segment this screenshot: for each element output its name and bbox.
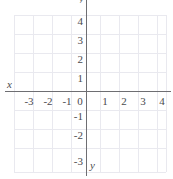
gridline-vertical — [119, 15, 120, 172]
y-tick-label: 3 — [67, 35, 83, 46]
x-tick-label: -3 — [20, 96, 38, 107]
y-axis-line — [86, 0, 87, 176]
x-tick-label-origin: 0 — [71, 96, 89, 107]
x-axis-line — [5, 91, 171, 92]
gridline-horizontal — [14, 148, 166, 149]
gridline-horizontal — [14, 172, 166, 173]
gridline-vertical — [33, 15, 34, 172]
gridline-horizontal — [14, 53, 166, 54]
gridline-horizontal — [14, 129, 166, 130]
x-axis-label: x — [7, 79, 12, 90]
x-tick-label: 4 — [153, 96, 171, 107]
gridline-horizontal — [14, 72, 166, 73]
y-axis-label-top: y — [79, 0, 91, 3]
gridline-vertical — [138, 15, 139, 172]
y-tick-label: -1 — [67, 111, 83, 122]
y-tick-label: -2 — [67, 130, 83, 141]
x-tick-label: -2 — [39, 96, 57, 107]
y-tick-label: -3 — [67, 156, 83, 167]
x-tick-label: 1 — [96, 96, 114, 107]
coordinate-plane-figure: y x y -3 -2 -1 0 1 2 3 4 4 3 2 1 -1 -2 -… — [0, 0, 173, 179]
gridline-vertical — [157, 15, 158, 172]
gridline-vertical — [166, 15, 167, 172]
gridline-vertical — [52, 15, 53, 172]
y-tick-label: 2 — [67, 54, 83, 65]
gridline-vertical — [14, 15, 15, 172]
y-axis-label: y — [90, 160, 95, 171]
y-tick-label: 4 — [67, 16, 83, 27]
gridline-vertical — [100, 15, 101, 172]
x-tick-label: 3 — [134, 96, 152, 107]
gridline-horizontal — [14, 34, 166, 35]
y-tick-label: 1 — [67, 73, 83, 84]
gridline-horizontal — [14, 15, 166, 16]
gridline-horizontal — [14, 110, 166, 111]
x-tick-label: 2 — [115, 96, 133, 107]
